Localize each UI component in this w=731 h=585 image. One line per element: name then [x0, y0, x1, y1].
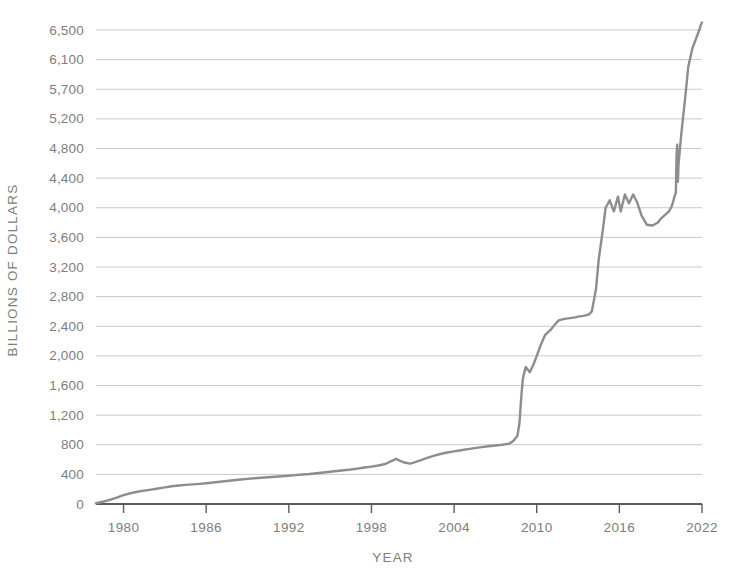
y-axis-tick-label: 1,600 [49, 378, 84, 393]
y-axis-tick-label: 4,400 [49, 171, 84, 186]
y-axis-tick-label: 0 [76, 497, 84, 512]
y-axis-tick-label: 2,400 [49, 319, 84, 334]
y-axis-tick-label: 4,800 [49, 141, 84, 156]
y-axis-tick-label: 3,200 [49, 260, 84, 275]
data-line [96, 23, 702, 504]
y-axis-tick-label: 5,200 [49, 111, 84, 126]
y-axis-tick-labels: 04008001,2001,6002,0002,4002,8003,2003,6… [49, 23, 84, 512]
x-axis-tick-label: 1998 [356, 520, 388, 535]
x-axis-ticks [124, 504, 702, 513]
chart-canvas: 04008001,2001,6002,0002,4002,8003,2003,6… [0, 0, 731, 585]
y-axis-tick-label: 400 [61, 467, 84, 482]
x-axis-tick-labels: 19801986199219982004201020162022 [108, 520, 718, 535]
x-axis-tick-label: 1992 [273, 520, 305, 535]
y-axis-tick-label: 5,700 [49, 82, 84, 97]
y-axis-tick-label: 4,000 [49, 200, 84, 215]
x-axis-tick-label: 2010 [521, 520, 553, 535]
y-axis-tick-label: 2,800 [49, 289, 84, 304]
y-axis-tick-label: 6,500 [49, 23, 84, 38]
x-axis-tick-label: 1986 [190, 520, 222, 535]
y-axis-tick-label: 3,600 [49, 230, 84, 245]
y-axis-tick-label: 2,000 [49, 348, 84, 363]
gridlines-group [96, 30, 702, 504]
x-axis-tick-label: 2022 [686, 520, 718, 535]
data-series-group [96, 23, 702, 504]
y-axis-tick-label: 800 [61, 437, 84, 452]
y-axis-tick-label: 6,100 [49, 52, 84, 67]
line-chart: 04008001,2001,6002,0002,4002,8003,2003,6… [0, 0, 731, 585]
x-axis-tick-label: 2004 [438, 520, 470, 535]
x-axis-title: YEAR [372, 550, 414, 565]
x-axis-tick-label: 2016 [604, 520, 636, 535]
x-axis-tick-label: 1980 [108, 520, 140, 535]
y-axis-title: BILLIONS OF DOLLARS [5, 184, 20, 357]
y-axis-tick-label: 1,200 [49, 408, 84, 423]
